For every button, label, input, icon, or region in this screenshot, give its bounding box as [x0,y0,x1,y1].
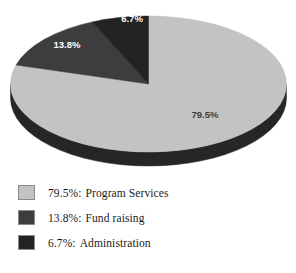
legend-label-program-services: 79.5%:Program Services [48,187,169,199]
pie-chart-plot-area: 79.5% 13.8% 6.7% [0,0,296,172]
pie-chart-svg: 79.5% 13.8% 6.7% [0,0,296,172]
pie-data-label-fund-raising: 13.8% [54,39,81,50]
chart-legend: 79.5%:Program Services 13.8%:Fund raisin… [0,180,296,255]
pie-data-label-administration: 6.7% [121,13,143,24]
legend-label-administration: 6.7%:Administration [48,237,151,249]
legend-percent-fund-raising: 13.8%: [48,212,82,224]
pie-top-faces [10,16,286,152]
legend-name-administration: Administration [80,237,151,249]
legend-name-program-services: Program Services [86,187,169,199]
pie-chart-figure: 79.5% 13.8% 6.7% 79.5%:Program Services … [0,0,296,273]
pie-data-label-program-services: 79.5% [192,109,219,120]
legend-item-administration[interactable]: 6.7%:Administration [0,230,296,255]
legend-swatch-fund-raising [18,210,35,225]
legend-label-fund-raising: 13.8%:Fund raising [48,212,145,224]
legend-item-fund-raising[interactable]: 13.8%:Fund raising [0,205,296,230]
legend-swatch-administration [18,235,35,250]
legend-name-fund-raising: Fund raising [86,212,145,224]
legend-percent-program-services: 79.5%: [48,187,82,199]
legend-percent-administration: 6.7%: [48,237,76,249]
legend-item-program-services[interactable]: 79.5%:Program Services [0,180,296,205]
legend-swatch-program-services [18,185,35,200]
